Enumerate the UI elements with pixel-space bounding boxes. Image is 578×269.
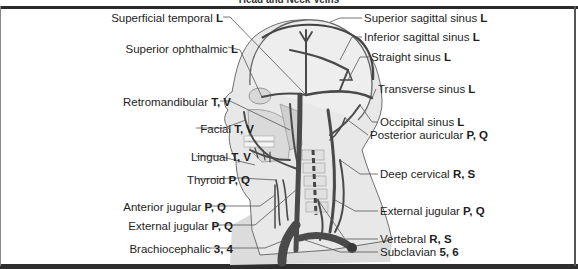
label-facial: Facial T, V — [200, 122, 254, 136]
label-deep-cervical: Deep cervical R, S — [380, 167, 475, 181]
label-external-jugular-left: External jugular P, Q — [128, 219, 233, 233]
label-anterior-jugular: Anterior jugular P, Q — [123, 200, 226, 214]
label-brachiocephalic: Brachiocephalic 3, 4 — [129, 242, 233, 256]
label-lingual: Lingual T, V — [191, 150, 251, 164]
label-superficial-temporal: Superficial temporal L — [111, 11, 223, 25]
label-external-jugular-right: External jugular P, Q — [380, 204, 485, 218]
label-vertebral: Vertebral R, S — [380, 232, 452, 246]
label-inferior-sagittal-sinus: Inferior sagittal sinus L — [364, 30, 480, 44]
subclavian-vein-cross-section — [347, 243, 357, 253]
label-superior-sagittal-sinus: Superior sagittal sinus L — [364, 11, 487, 25]
label-retromandibular: Retromandibular T, V — [123, 95, 231, 109]
label-posterior-auricular: Posterior auricular P, Q — [370, 128, 488, 142]
label-straight-sinus: Straight sinus L — [371, 50, 451, 64]
label-transverse-sinus: Transverse sinus L — [378, 82, 475, 96]
label-superior-ophthalmic: Superior ophthalmic L — [125, 42, 238, 56]
label-subclavian: Subclavian 5, 6 — [380, 245, 459, 259]
label-thyroid: Thyroid P, Q — [187, 173, 250, 187]
head-neck-vein-illustration — [0, 0, 578, 269]
teeth-upper — [244, 136, 274, 141]
label-occipital-sinus: Occipital sinus L — [380, 115, 464, 129]
